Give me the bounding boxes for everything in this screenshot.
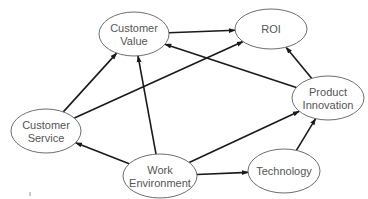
edge-work-environment-to-customer-service xyxy=(76,143,130,164)
node-label: Product xyxy=(309,86,347,98)
edge-customer-service-to-roi xyxy=(74,42,243,119)
edge-customer-value-to-roi xyxy=(169,30,235,32)
edge-technology-to-product-innovation xyxy=(296,119,315,151)
node-work-environment: WorkEnvironment xyxy=(123,154,197,198)
node-label: Customer xyxy=(22,119,70,131)
node-customer-value: CustomerValue xyxy=(99,12,169,56)
node-label: Value xyxy=(120,35,147,47)
node-label: Service xyxy=(28,132,65,144)
node-label: Work xyxy=(147,164,173,176)
node-label: Technology xyxy=(256,165,312,177)
nodes-layer: CustomerValueROICustomerServiceProductIn… xyxy=(11,9,364,198)
edge-work-environment-to-customer-value xyxy=(138,56,156,154)
node-technology: Technology xyxy=(248,149,320,193)
node-product-innovation: ProductInnovation xyxy=(292,76,364,120)
node-label: Innovation xyxy=(303,99,354,111)
node-roi: ROI xyxy=(235,9,307,49)
diagram-canvas: CustomerValueROICustomerServiceProductIn… xyxy=(0,0,368,199)
edge-product-innovation-to-roi xyxy=(286,47,312,78)
node-customer-service: CustomerService xyxy=(11,109,81,153)
node-label: Environment xyxy=(129,177,191,189)
edge-product-innovation-to-customer-value xyxy=(165,44,296,87)
node-label: Customer xyxy=(110,22,158,34)
edge-work-environment-to-technology xyxy=(197,172,248,174)
node-label: ROI xyxy=(261,23,281,35)
